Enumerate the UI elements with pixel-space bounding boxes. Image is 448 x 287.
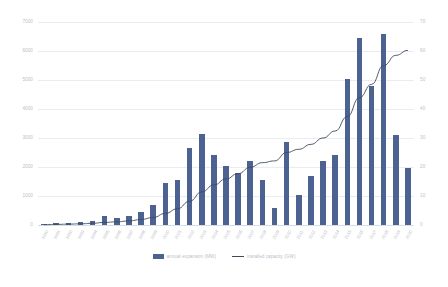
x-axis-tick-1995: 1995: [102, 230, 111, 241]
x-axis-tick-2014: 2014: [332, 230, 341, 241]
x-axis-tick-2013: 2013: [320, 230, 329, 241]
x-axis-tick-1998: 1998: [138, 230, 147, 241]
x-axis-tick-1996: 1996: [114, 230, 123, 241]
x-axis-tick-2005: 2005: [223, 230, 232, 241]
x-axis-tick-2002: 2002: [187, 230, 196, 241]
y-axis-right-tick: 70: [420, 20, 425, 25]
capacity-line-path: [44, 50, 408, 224]
x-axis-tick-2009: 2009: [272, 230, 281, 241]
legend-label-installed-capacity: installed capacity (GW): [247, 254, 295, 259]
x-axis-tick-1993: 1993: [78, 230, 87, 241]
legend-label-annual-expansion: annual expansion (MW): [167, 254, 217, 259]
y-axis-left-tick: 5000: [22, 78, 33, 83]
capacity-line-svg: [38, 22, 414, 225]
x-axis-tick-2000: 2000: [162, 230, 171, 241]
x-axis-tick-2012: 2012: [308, 230, 317, 241]
x-axis-tick-1992: 1992: [65, 230, 74, 241]
x-axis-tick-1990: 1990: [41, 230, 50, 241]
x-axis-tick-2001: 2001: [175, 230, 184, 241]
x-axis-tick-2015: 2015: [344, 230, 353, 241]
bar-swatch-icon: [153, 254, 164, 259]
x-axis-tick-2017: 2017: [369, 230, 378, 241]
y-axis-right-tick: 0: [420, 223, 423, 228]
line-series-installed-capacity: [38, 22, 414, 225]
x-axis-tick-2004: 2004: [211, 230, 220, 241]
y-axis-left-tick: 2000: [22, 165, 33, 170]
x-axis-tick-1999: 1999: [150, 230, 159, 241]
x-axis-tick-2008: 2008: [259, 230, 268, 241]
chart-container: 0010001020002030003040004050005060006070…: [0, 0, 448, 287]
line-swatch-icon: [232, 256, 244, 257]
y-axis-right-tick: 40: [420, 107, 425, 112]
x-axis-tick-2018: 2018: [381, 230, 390, 241]
plot-area: 0010001020002030003040004050005060006070…: [38, 22, 414, 225]
gridline: [38, 225, 414, 226]
y-axis-left-tick: 7000: [22, 20, 33, 25]
x-axis-tick-2019: 2019: [393, 230, 402, 241]
x-axis-tick-2006: 2006: [235, 230, 244, 241]
x-axis-tick-2016: 2016: [357, 230, 366, 241]
y-axis-left-tick: 0: [30, 223, 33, 228]
legend-item-annual-expansion: annual expansion (MW): [153, 254, 217, 259]
chart-legend: annual expansion (MW) installed capacity…: [0, 254, 448, 259]
x-axis-tick-2020: 2020: [405, 230, 414, 241]
y-axis-right-tick: 10: [420, 194, 425, 199]
x-axis-tick-2011: 2011: [296, 230, 305, 240]
y-axis-left-tick: 6000: [22, 49, 33, 54]
x-axis-tick-1991: 1991: [53, 230, 62, 241]
x-axis-tick-labels: 1990199119921993199419951996199719981999…: [38, 227, 414, 253]
x-axis-tick-2003: 2003: [199, 230, 208, 241]
y-axis-left-tick: 4000: [22, 107, 33, 112]
y-axis-left-tick: 3000: [22, 136, 33, 141]
x-axis-tick-2007: 2007: [247, 230, 256, 241]
x-axis-tick-1997: 1997: [126, 230, 135, 241]
x-axis-tick-2010: 2010: [284, 230, 293, 241]
y-axis-right-tick: 30: [420, 136, 425, 141]
y-axis-right-tick: 60: [420, 49, 425, 54]
legend-item-installed-capacity: installed capacity (GW): [232, 254, 295, 259]
y-axis-left-tick: 1000: [22, 194, 33, 199]
y-axis-right-tick: 20: [420, 165, 425, 170]
y-axis-right-tick: 50: [420, 78, 425, 83]
x-axis-tick-1994: 1994: [90, 230, 99, 241]
